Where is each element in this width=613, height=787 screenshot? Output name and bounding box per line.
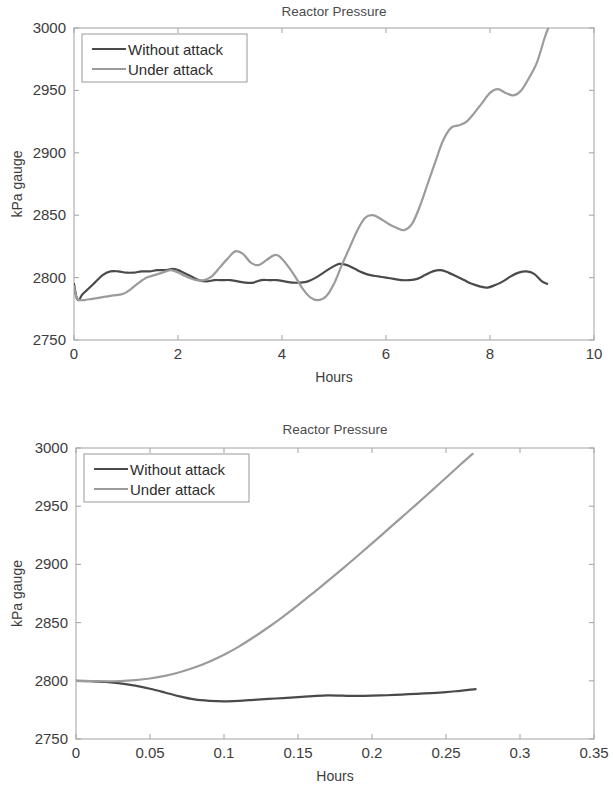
x-tick-label: 0.35 [579,744,608,761]
y-axis-label: kPa gauge [9,150,25,217]
series-line-without-attack [76,681,476,701]
x-tick-label: 0.25 [431,744,460,761]
legend-label: Without attack [130,461,226,478]
y-tick-label: 2900 [33,144,66,161]
y-axis-label: kPa gauge [9,560,25,627]
x-tick-label: 8 [486,345,494,362]
x-tick-label: 10 [586,345,603,362]
chart-title: Reactor Pressure [282,422,387,437]
y-tick-label: 3000 [35,439,68,456]
y-tick-label: 2750 [33,331,66,348]
x-tick-label: 0 [70,345,78,362]
x-tick-label: 0.15 [283,744,312,761]
x-tick-label: 0.2 [362,744,383,761]
y-tick-label: 2850 [33,206,66,223]
x-tick-label: 0.05 [135,744,164,761]
x-tick-label: 0 [72,744,80,761]
legend-label: Under attack [130,481,216,498]
reactor-pressure-chart-zoomed: Reactor Pressure00.050.10.150.20.250.30.… [0,392,613,787]
x-tick-label: 6 [382,345,390,362]
x-tick-label: 4 [278,345,286,362]
x-axis-label: Hours [316,768,353,784]
x-tick-label: 2 [174,345,182,362]
y-tick-label: 2800 [35,672,68,689]
y-tick-label: 2800 [33,269,66,286]
y-tick-label: 2950 [35,497,68,514]
chart-canvas-bottom: Reactor Pressure00.050.10.150.20.250.30.… [0,392,613,787]
y-tick-label: 2850 [35,614,68,631]
legend-label: Without attack [128,41,224,58]
reactor-pressure-chart-full-range: Reactor Pressure024681027502800285029002… [0,0,613,392]
x-axis-label: Hours [315,369,352,385]
x-tick-label: 0.1 [214,744,235,761]
series-line-without-attack [74,264,547,300]
y-tick-label: 3000 [33,19,66,36]
y-tick-label: 2900 [35,555,68,572]
y-tick-label: 2950 [33,81,66,98]
chart-title: Reactor Pressure [281,4,386,19]
chart-canvas-top: Reactor Pressure024681027502800285029002… [0,0,613,392]
y-tick-label: 2750 [35,730,68,747]
legend-label: Under attack [128,61,214,78]
x-tick-label: 0.3 [510,744,531,761]
